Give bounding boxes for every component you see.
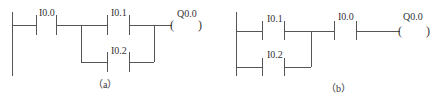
contact-label: I0.1 <box>267 13 283 24</box>
coil-q0-0: ( ) Q0.0 <box>398 11 430 38</box>
contact-label: I0.1 <box>111 7 127 18</box>
contact-i0-1: I0.1 <box>262 13 284 40</box>
ladder-diagrams: I0.0 I0.1 I0.2 ( ) Q0.0 （a） <box>0 0 438 102</box>
contact-i0-1: I0.1 <box>107 7 129 35</box>
ladder-diagram-b: I0.1 I0.2 I0.0 ( ) Q0.0 （b） <box>236 11 430 94</box>
coil-close: ) <box>198 18 202 32</box>
coil-label: Q0.0 <box>403 11 423 22</box>
contact-label: I0.2 <box>111 45 127 56</box>
coil-open: ( <box>398 24 402 38</box>
coil-open: ( <box>170 18 174 32</box>
contact-label: I0.0 <box>338 11 354 22</box>
ladder-diagram-a: I0.0 I0.1 I0.2 ( ) Q0.0 （a） <box>12 7 202 90</box>
contact-i0-0: I0.0 <box>36 7 56 35</box>
caption-a: （a） <box>93 79 117 90</box>
coil-close: ) <box>426 24 430 38</box>
contact-i0-2: I0.2 <box>262 49 284 76</box>
caption-b: （b） <box>326 83 351 94</box>
contact-i0-0: I0.0 <box>334 11 356 40</box>
coil-label: Q0.0 <box>177 8 197 19</box>
contact-i0-2: I0.2 <box>107 45 129 72</box>
contact-label: I0.0 <box>39 7 55 18</box>
contact-label: I0.2 <box>267 49 283 60</box>
coil-q0-0: ( ) Q0.0 <box>170 8 202 32</box>
